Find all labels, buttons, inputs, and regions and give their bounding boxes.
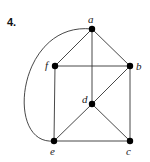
node-c xyxy=(127,138,133,144)
node-label-e: e xyxy=(50,146,55,157)
edge-d-c xyxy=(92,104,130,141)
node-label-a: a xyxy=(88,14,94,25)
node-f xyxy=(52,63,58,69)
node-label-d: d xyxy=(82,94,88,105)
node-label-b: b xyxy=(136,61,142,72)
edge-a-b xyxy=(92,29,130,66)
node-label-c: c xyxy=(126,146,131,157)
node-label-f: f xyxy=(45,60,48,71)
edge-f-e xyxy=(54,66,55,141)
edge-b-d xyxy=(92,66,130,104)
graph-edges xyxy=(24,29,130,142)
node-a xyxy=(89,26,95,32)
node-d xyxy=(89,101,95,107)
node-b xyxy=(127,63,133,69)
node-e xyxy=(51,138,57,144)
graph-figure: 4. abfdec xyxy=(0,0,150,162)
edge-d-e xyxy=(54,104,92,141)
graph-diagram xyxy=(0,0,150,162)
edge-a-e xyxy=(24,29,92,142)
